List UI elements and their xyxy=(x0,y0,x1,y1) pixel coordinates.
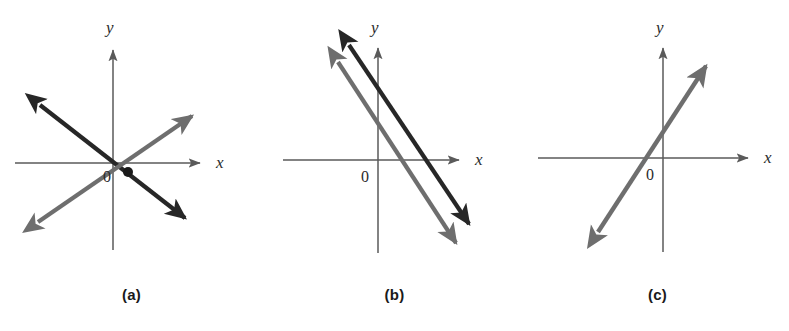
panel-c-origin-label: 0 xyxy=(646,166,654,183)
panel-c: x y 0 (c) xyxy=(526,0,789,331)
panel-c-caption: (c) xyxy=(526,286,789,303)
panel-b-x-axis-label: x xyxy=(474,150,483,169)
figure-root: x y 0 (a) xyxy=(0,0,789,331)
panel-a-y-axis-label: y xyxy=(104,18,114,37)
panel-c-coincident-line xyxy=(598,66,706,232)
panel-a: x y 0 (a) xyxy=(0,0,263,331)
panel-b-gray-line xyxy=(338,62,456,243)
panel-a-x-axis-label: x xyxy=(215,153,224,172)
panel-a-origin-label: 0 xyxy=(103,168,111,185)
panel-a-intersection-dot xyxy=(123,167,133,177)
panel-a-caption: (a) xyxy=(0,286,263,303)
panel-a-graph: x y 0 xyxy=(0,0,263,283)
panel-c-x-axis-label: x xyxy=(763,148,772,167)
panel-b-dark-line xyxy=(349,45,469,224)
panel-c-graph: x y 0 xyxy=(526,0,789,283)
panel-c-y-axis-label: y xyxy=(654,18,664,37)
panel-b-graph: x y 0 xyxy=(263,0,526,283)
panel-b-origin-label: 0 xyxy=(361,168,369,185)
panel-b: x y 0 (b) xyxy=(263,0,526,331)
panel-b-caption: (b) xyxy=(263,286,526,303)
panel-b-y-axis-label: y xyxy=(369,18,379,37)
